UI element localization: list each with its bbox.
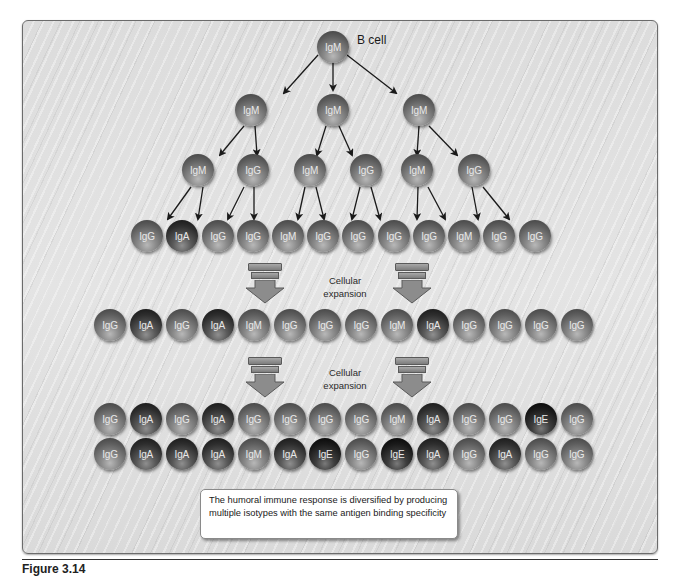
b-cell-iga: IgA	[130, 309, 162, 341]
differentiation-arrow-icon	[339, 126, 352, 155]
b-cell-igg: IgG	[342, 220, 374, 252]
b-cell-igg: IgG	[350, 154, 382, 186]
b-cell-igg: IgG	[453, 403, 485, 435]
b-cell-igm: IgM	[235, 94, 267, 126]
b-cell-igm: IgM	[238, 309, 270, 341]
b-cell-igg: IgG	[453, 309, 485, 341]
cellular-expansion-label: Cellularexpansion	[305, 274, 385, 300]
b-cell-ige: IgE	[381, 438, 413, 470]
b-cell-ige: IgE	[309, 438, 341, 470]
b-cell-igg: IgG	[166, 309, 198, 341]
b-cell-igg: IgG	[489, 309, 521, 341]
b-cell-igg: IgG	[274, 309, 306, 341]
b-cell-igm: IgM	[238, 438, 270, 470]
b-cell-igg: IgG	[94, 309, 126, 341]
b-cell-igg: IgG	[307, 220, 339, 252]
differentiation-arrow-icon	[220, 126, 244, 155]
b-cell-igm: IgM	[403, 94, 435, 126]
differentiation-arrow-icon	[472, 187, 478, 219]
b-cell-igg: IgG	[238, 403, 270, 435]
b-cell-iga: IgA	[417, 309, 449, 341]
b-cell-igg: IgG	[345, 309, 377, 341]
differentiation-arrow-icon	[284, 55, 318, 93]
b-cell-iga: IgA	[202, 438, 234, 470]
differentiation-arrow-icon	[317, 126, 326, 155]
b-cell-iga: IgA	[417, 438, 449, 470]
differentiation-arrow-icon	[417, 187, 418, 219]
b-cell-iga: IgA	[489, 438, 521, 470]
expansion-arrow-icon	[390, 263, 434, 305]
b-cell-igg: IgG	[166, 403, 198, 435]
b-cell-igm: IgM	[381, 309, 413, 341]
b-cell-iga: IgA	[202, 309, 234, 341]
differentiation-arrow-icon	[198, 187, 203, 219]
differentiation-arrow-icon	[352, 187, 360, 219]
b-cell-igg: IgG	[458, 154, 490, 186]
b-cell-igg: IgG	[237, 154, 269, 186]
b-cell-igg: IgG	[561, 438, 593, 470]
b-cell-igg: IgG	[309, 403, 341, 435]
b-cell-igg: IgG	[345, 403, 377, 435]
differentiation-arrow-icon	[168, 187, 191, 219]
b-cell-igg: IgG	[378, 220, 410, 252]
differentiation-arrow-icon	[347, 55, 396, 93]
b-cell-igm: IgM	[294, 154, 326, 186]
b-cell-igg: IgG	[489, 403, 521, 435]
b-cell-igm: IgM	[317, 94, 349, 126]
differentiation-arrow-icon	[371, 187, 380, 219]
b-cell-igg: IgG	[309, 309, 341, 341]
b-cell-iga: IgA	[130, 438, 162, 470]
b-cell-igm: IgM	[448, 220, 480, 252]
differentiation-arrow-icon	[428, 187, 445, 219]
differentiation-arrow-icon	[483, 187, 509, 219]
b-cell-igm: IgM	[381, 403, 413, 435]
summary-note: The humoral immune response is diversifi…	[200, 489, 458, 539]
b-cell-iga: IgA	[202, 403, 234, 435]
expansion-arrow-icon	[390, 357, 434, 399]
expansion-arrow-icon	[243, 263, 287, 305]
b-cell-igg: IgG	[525, 309, 557, 341]
b-cell-igg: IgG	[453, 438, 485, 470]
b-cell-iga: IgA	[166, 220, 198, 252]
summary-note-text: The humoral immune response is diversifi…	[209, 495, 447, 518]
differentiation-arrow-icon	[255, 126, 257, 155]
b-cell-igg: IgG	[131, 220, 163, 252]
b-cell-igg: IgG	[561, 403, 593, 435]
b-cell-igg: IgG	[237, 220, 269, 252]
b-cell-igg: IgG	[274, 403, 306, 435]
cellular-expansion-label: Cellularexpansion	[305, 366, 385, 392]
b-cell-igg: IgG	[94, 438, 126, 470]
differentiation-arrow-icon	[417, 126, 419, 155]
b-cell-igm: IgM	[317, 31, 349, 63]
b-cell-iga: IgA	[166, 438, 198, 470]
b-cell-ige: IgE	[525, 403, 557, 435]
differentiation-arrow-icon	[429, 126, 457, 155]
b-cell-igg: IgG	[345, 438, 377, 470]
bottom-rule	[22, 559, 658, 560]
b-cell-iga: IgA	[417, 403, 449, 435]
b-cell-iga: IgA	[274, 438, 306, 470]
expansion-arrow-icon	[243, 357, 287, 399]
differentiation-arrow-icon	[316, 187, 324, 219]
b-cell-label: B cell	[357, 33, 386, 47]
b-cell-igg: IgG	[202, 220, 234, 252]
figure-caption: Figure 3.14	[22, 562, 85, 576]
b-cell-iga: IgA	[130, 403, 162, 435]
differentiation-arrow-icon	[228, 187, 244, 219]
b-cell-igg: IgG	[483, 220, 515, 252]
b-cell-igg: IgG	[525, 438, 557, 470]
b-cell-igg: IgG	[94, 403, 126, 435]
differentiation-arrow-icon	[298, 187, 305, 219]
b-cell-igm: IgM	[182, 154, 214, 186]
b-cell-igg: IgG	[519, 220, 551, 252]
b-cell-igg: IgG	[561, 309, 593, 341]
b-cell-igm: IgM	[401, 154, 433, 186]
b-cell-igm: IgM	[272, 220, 304, 252]
b-cell-igg: IgG	[413, 220, 445, 252]
